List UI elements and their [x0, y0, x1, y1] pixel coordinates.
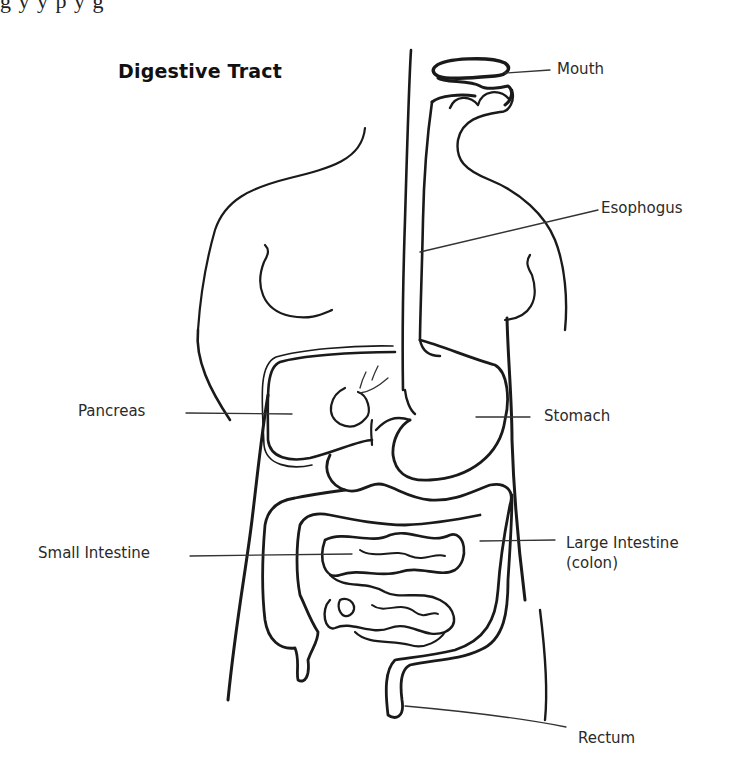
label-stomach: Stomach [544, 407, 610, 426]
leader-small-intestine [190, 554, 352, 556]
leader-rectum [405, 706, 566, 727]
small-intestine [322, 533, 464, 646]
leader-esophagus [420, 210, 598, 252]
leader-mouth [505, 70, 550, 73]
leader-large-intestine [480, 540, 555, 541]
label-large-intestine: Large Intestine [566, 534, 679, 553]
large-intestine [263, 455, 512, 717]
body-outline [198, 90, 566, 720]
label-large-intestine-colon: (colon) [566, 554, 618, 573]
stomach [371, 340, 507, 480]
label-esophagus: Esophogus [601, 199, 683, 218]
leader-pancreas [186, 413, 292, 414]
label-mouth: Mouth [557, 60, 604, 79]
liver [262, 346, 395, 467]
label-small-intestine: Small Intestine [38, 544, 150, 563]
label-rectum: Rectum [578, 729, 635, 748]
mouth [432, 59, 512, 105]
esophagus [403, 50, 440, 414]
digestive-tract-illustration [0, 0, 748, 772]
label-pancreas: Pancreas [78, 402, 145, 421]
